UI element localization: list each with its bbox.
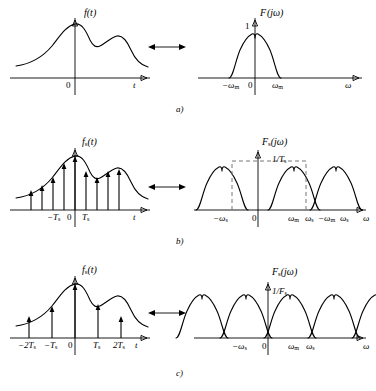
panel-c: fs(t) −2Ts −Ts 0 Ts 2Ts t Fs(jω) 1/Fs	[0, 258, 376, 391]
panel-b: fs(t) −Ts 0 Ts t Fs(jω) 1/Ts −ωs 0 ωm	[0, 128, 376, 260]
panel-c-time-tick-Ts: Ts	[93, 341, 100, 350]
panel-c-tag: c)	[176, 368, 183, 378]
panel-b-freq-tick-wm: ωm	[288, 214, 299, 223]
panel-b-time-ylabel: fs(t)	[82, 137, 97, 148]
transform-arrow-c	[145, 306, 189, 320]
transform-arrow-b	[145, 180, 189, 194]
panel-b-time-origin: 0	[67, 213, 72, 222]
panel-b-freq-origin: 0	[252, 214, 257, 223]
panel-c-freq-tick-neg-ws: −ωs	[232, 342, 247, 351]
panel-a-freq-xlabel: ω	[345, 81, 351, 90]
panel-a-tag: a)	[176, 104, 184, 114]
panel-a-time-origin: 0	[66, 81, 71, 90]
panel-a-freq-tick-neg-wm: −ωm	[222, 81, 239, 90]
transform-arrow-a	[145, 40, 189, 54]
panel-b-freq-ylabel: Fs(jω)	[262, 137, 287, 148]
panel-c-freq-tick-ws: ωs	[306, 342, 315, 351]
panel-c-time-xlabel: t	[135, 341, 138, 350]
panel-b-time-tick-neg-Ts: −Ts	[47, 213, 60, 222]
panel-c-time-origin: 0	[68, 341, 73, 350]
panel-b-time-xlabel: t	[133, 213, 136, 222]
panel-c-freq-xlabel: ω	[363, 342, 369, 351]
panel-c-time-tick-neg-2Ts: −2Ts	[18, 341, 36, 350]
panel-a-time-ylabel: f(t)	[84, 8, 96, 18]
panel-c-freq-ylabel: Fs(jω)	[272, 267, 297, 278]
panel-b-time-tick-Ts: Ts	[82, 213, 89, 222]
panel-b-freq-tick-ws: ωs	[305, 214, 314, 223]
panel-a-freq-origin: 0	[248, 81, 253, 90]
panel-a-freq-ylabel: F (jω)	[260, 8, 283, 18]
panel-c-time-ylabel: fs(t)	[82, 265, 97, 276]
panel-c-freq-origin: 0	[262, 342, 267, 351]
panel-b-tag: b)	[176, 236, 184, 246]
panel-b-freq-tick-neg-wm: −ωm	[318, 214, 335, 223]
impulse-train-c	[27, 284, 124, 338]
panel-b-freq-tick-ws2: ωs	[340, 214, 349, 223]
panel-c-time-tick-neg-Ts: −Ts	[44, 341, 57, 350]
panel-b-freq-peak-label: 1/Ts	[272, 155, 286, 164]
panel-c-freq-peak-label: 1/Fs	[272, 287, 287, 296]
panel-b-freq-tick-neg-ws: −ωs	[213, 214, 228, 223]
panel-a-freq-peak-label: 1	[245, 22, 250, 31]
panel-a-freq-tick-wm: ωm	[272, 81, 283, 90]
panel-c-freq-tick-wm: ωm	[288, 342, 299, 351]
panel-b-freq-xlabel: ω	[363, 214, 369, 223]
panel-a-time-xlabel: t	[133, 81, 136, 90]
panel-a: f(t) 0 t F (jω) 1 −ωm 0 ωm ω a)	[0, 0, 376, 128]
panel-c-time-tick-2Ts: 2Ts	[113, 341, 125, 350]
aliased-replicas-c	[176, 295, 376, 338]
impulse-train-b	[29, 156, 122, 210]
